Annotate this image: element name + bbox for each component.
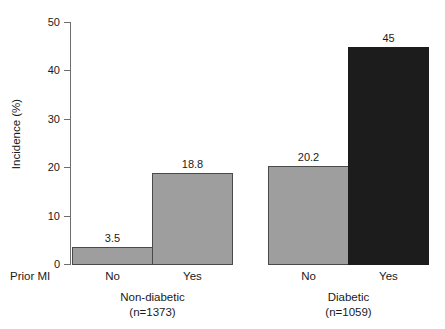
x-axis-row-title: Prior MI	[10, 270, 50, 283]
bar-value-label-nondiabetic-yes: 18.8	[152, 159, 233, 170]
y-tick-40	[64, 70, 70, 71]
figure-root: 50 40 30 20 10 0 Incidence (%) 3.5 18.8	[0, 0, 445, 329]
y-tick-label-30-wrap: 30	[34, 114, 60, 125]
y-tick-label-40: 40	[36, 65, 60, 76]
y-tick-50	[64, 22, 70, 23]
bar-value-label-nondiabetic-no: 3.5	[72, 233, 153, 244]
y-axis-title: Incidence (%)	[10, 74, 22, 194]
group-n-diabetic: (n=1059)	[268, 305, 429, 319]
y-tick-label-50: 50	[36, 17, 60, 28]
x-category-diabetic-yes: Yes	[348, 270, 429, 283]
y-tick-label-10-wrap: 10	[34, 211, 60, 222]
y-tick-label-0-wrap: 0	[34, 259, 60, 270]
y-tick-label-20-wrap: 20	[34, 162, 60, 173]
x-category-nondiabetic-no: No	[72, 270, 153, 283]
group-label-diabetic: Diabetic	[268, 290, 429, 304]
y-tick-label-30: 30	[36, 114, 60, 125]
y-tick-label-0: 0	[36, 259, 60, 270]
bar-value-label-diabetic-no: 20.2	[268, 152, 349, 163]
y-tick-10	[64, 216, 70, 217]
y-tick-20	[64, 167, 70, 168]
y-tick-label-20: 20	[36, 162, 60, 173]
x-category-diabetic-no: No	[268, 270, 349, 283]
x-category-nondiabetic-yes: Yes	[152, 270, 233, 283]
group-label-nondiabetic: Non-diabetic	[72, 290, 233, 304]
y-tick-30	[64, 119, 70, 120]
bar-nondiabetic-no	[72, 247, 153, 265]
bar-value-label-diabetic-yes: 45	[348, 33, 429, 44]
group-n-nondiabetic: (n=1373)	[72, 305, 233, 319]
y-axis-spine	[70, 22, 71, 265]
y-tick-label-40-wrap: 40	[34, 65, 60, 76]
plot-area: 50 40 30 20 10 0 Incidence (%) 3.5 18.8	[0, 0, 445, 329]
y-tick-label-50-wrap: 50	[34, 17, 60, 28]
bar-nondiabetic-yes	[152, 173, 233, 265]
y-tick-0	[64, 264, 70, 265]
bar-diabetic-no	[268, 166, 349, 265]
bar-diabetic-yes	[348, 47, 429, 265]
y-tick-label-10: 10	[36, 211, 60, 222]
